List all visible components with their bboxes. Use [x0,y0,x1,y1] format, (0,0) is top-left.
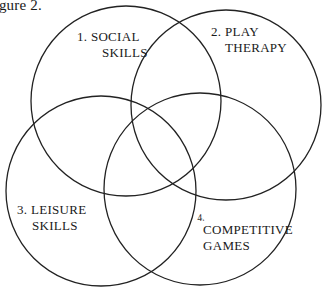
label-line: GAMES [203,238,293,254]
label-line: 1. SOCIAL [77,29,148,45]
label-line: THERAPY [211,40,287,56]
label-line: 2. PLAY [211,24,287,40]
label-leisure-skills: 3. LEISURE SKILLS [17,202,86,234]
label-competitive-games: COMPETITIVE GAMES [203,222,293,254]
label-line: COMPETITIVE [203,222,293,238]
label-line: SKILLS [77,45,148,61]
label-line: 3. LEISURE [17,202,86,218]
label-social-skills: 1. SOCIAL SKILLS [77,29,148,61]
label-line: SKILLS [17,218,86,234]
label-play-therapy: 2. PLAY THERAPY [211,24,287,56]
